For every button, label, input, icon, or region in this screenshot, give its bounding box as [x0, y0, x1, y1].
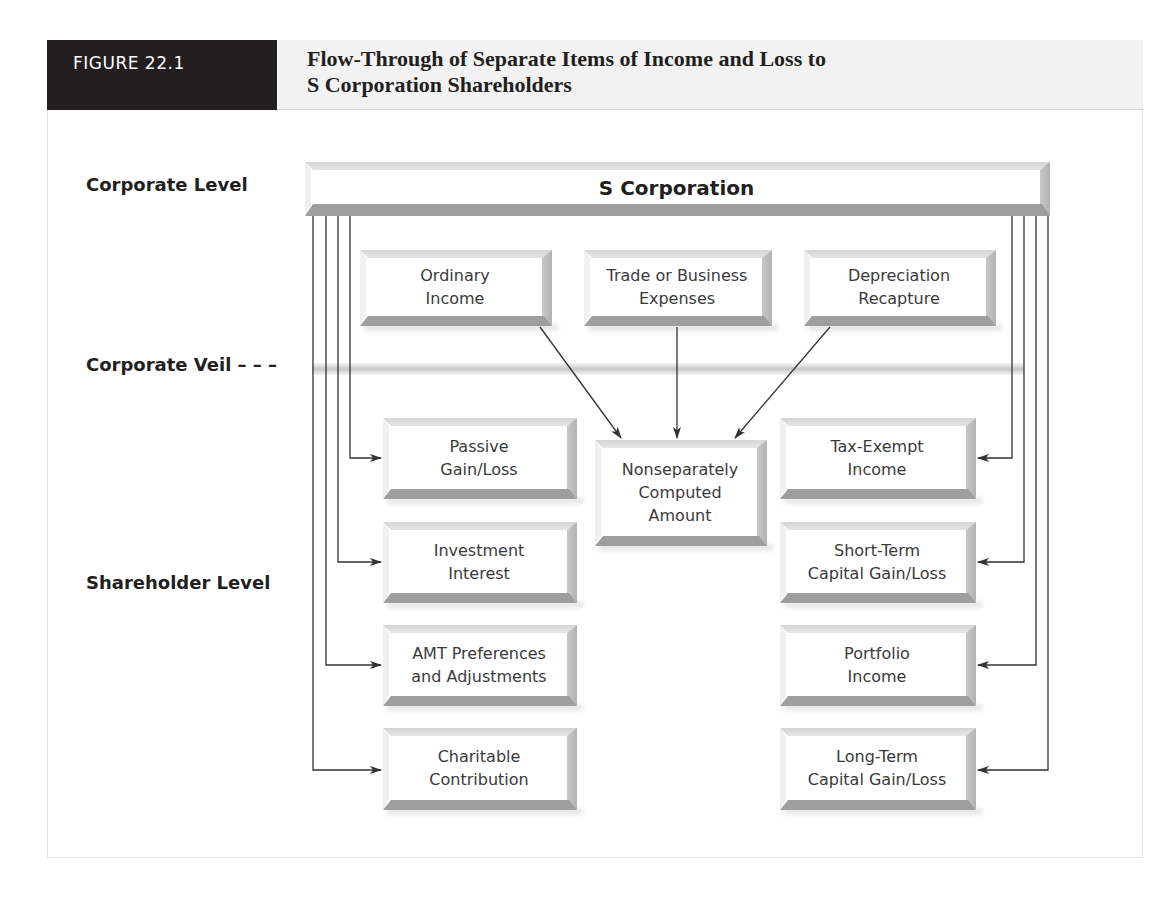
arrow-to-portfolio	[978, 216, 1036, 665]
arrow-to-amt	[326, 216, 381, 665]
arrow-depreciation-to-center	[735, 327, 830, 438]
arrow-to-tax-exempt	[978, 216, 1012, 458]
arrow-to-passive	[350, 216, 381, 458]
arrow-to-short-term	[978, 216, 1024, 562]
connector-arrows	[0, 0, 1175, 911]
arrow-to-charitable	[313, 216, 381, 770]
arrow-to-long-term	[978, 216, 1048, 770]
arrow-to-investment	[338, 216, 381, 562]
arrow-ordinary-to-center	[540, 327, 621, 438]
